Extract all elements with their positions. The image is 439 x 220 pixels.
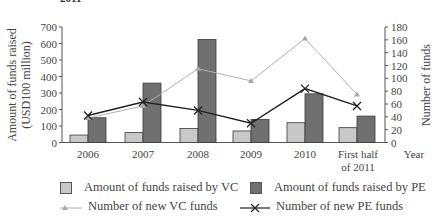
cross-line-icon	[240, 202, 270, 212]
vc-amount-bar	[287, 123, 305, 143]
right-tick-label: 120	[391, 60, 408, 72]
left-axis-ticks: 0100200300400500600700	[41, 21, 63, 149]
right-axis-title: Number of funds	[419, 44, 433, 126]
vc-amount-bar	[180, 128, 198, 142]
pe-amount-bar	[198, 39, 216, 142]
vc-amount-bar	[233, 131, 251, 143]
right-tick-label: 0	[391, 137, 397, 149]
left-tick-label: 400	[41, 71, 58, 83]
right-tick-label: 160	[391, 34, 408, 46]
pe-amount-bar	[143, 83, 161, 142]
pe-amount-bar	[88, 118, 106, 143]
right-tick-label: 140	[391, 47, 408, 59]
right-axis-ticks: 020406080100120140160180	[385, 21, 408, 149]
legend-item-vc-amount: Amount of funds raised by VC	[60, 180, 238, 195]
left-tick-label: 700	[41, 21, 58, 33]
x-label-2008: 2008	[187, 148, 210, 160]
pe-amount-bar	[251, 119, 269, 142]
left-tick-label: 0	[52, 137, 58, 149]
cross-marker-icon	[353, 102, 361, 110]
triangle-marker-icon	[302, 36, 308, 41]
light-gray-swatch-icon	[60, 182, 72, 194]
pe-amount-bar	[305, 94, 323, 143]
legend-item-pe-count: Number of new PE funds	[240, 199, 403, 214]
chart-plot: 0100200300400500600700 02040608010012014…	[0, 0, 439, 178]
x-label-2009: 2009	[240, 148, 263, 160]
right-tick-label: 60	[391, 98, 403, 110]
x-label-2010: 2010	[294, 148, 317, 160]
bars	[70, 39, 375, 142]
right-tick-label: 80	[391, 85, 403, 97]
left-axis-title-line2: (USD100 million)	[19, 41, 33, 129]
right-tick-label: 180	[391, 21, 408, 33]
legend-label-pe-amount: Amount of funds raised by PE	[274, 180, 426, 195]
right-tick-label: 40	[391, 111, 403, 123]
x-label-2007: 2007	[132, 148, 155, 160]
left-tick-label: 200	[41, 104, 58, 116]
legend-item-pe-amount: Amount of funds raised by PE	[250, 180, 426, 195]
left-axis-title-line1: Amount of funds raised	[5, 28, 19, 142]
vc-amount-bar	[125, 133, 143, 143]
legend-item-vc-count: Number of new VC funds	[60, 199, 218, 214]
right-tick-label: 100	[391, 72, 408, 84]
vc-amount-bar	[70, 135, 88, 142]
vc-amount-bar	[339, 128, 357, 143]
left-tick-label: 500	[41, 54, 58, 66]
dark-gray-swatch-icon	[250, 182, 262, 194]
legend-label-vc-count: Number of new VC funds	[88, 199, 218, 214]
pe-amount-bar	[357, 116, 375, 142]
legend-label-pe-count: Number of new PE funds	[276, 199, 403, 214]
legend-label-vc-amount: Amount of funds raised by VC	[84, 180, 238, 195]
x-label-first-half: First half	[338, 148, 378, 160]
left-tick-label: 600	[41, 38, 58, 50]
left-tick-label: 100	[41, 120, 58, 132]
legend: Amount of funds raised by VC Amount of f…	[60, 178, 439, 220]
left-tick-label: 300	[41, 87, 58, 99]
x-label-of-2011: of 2011	[341, 161, 375, 173]
cross-marker-icon	[301, 85, 309, 93]
x-axis-title: Year	[404, 148, 425, 160]
right-tick-label: 20	[391, 124, 403, 136]
x-label-2006: 2006	[77, 148, 100, 160]
triangle-line-icon	[60, 202, 82, 212]
x-axis-labels: 2006 2007 2008 2009 2010 First half of 2…	[77, 148, 424, 173]
